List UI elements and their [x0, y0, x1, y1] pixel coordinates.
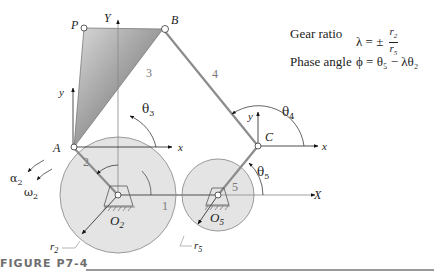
pin-a: [71, 144, 77, 150]
r5-leader: [180, 236, 192, 246]
label-y-a: y: [58, 86, 64, 98]
coupler-link-3: [74, 28, 163, 147]
label-x-global: X: [313, 188, 322, 202]
gear-ratio-lhs: λ = ±: [356, 34, 383, 49]
caption-rule: [86, 269, 434, 271]
label-link-3: 3: [146, 66, 152, 80]
label-theta4: θ4: [282, 105, 294, 121]
label-theta3: θ3: [142, 102, 154, 118]
rocker-link-4: [163, 29, 258, 146]
pin-c: [255, 143, 261, 149]
label-link-4: 4: [212, 67, 218, 81]
label-theta5: θ5: [257, 165, 269, 181]
label-link-1: 1: [162, 199, 168, 213]
label-y-global: Y: [104, 11, 112, 25]
figure-caption: FIGURE P7-4: [0, 257, 88, 270]
label-y-c: y: [247, 110, 253, 122]
pin-b: [162, 26, 169, 33]
label-c: C: [265, 130, 274, 144]
pivot-o2: [115, 192, 121, 198]
label-b: B: [171, 13, 179, 27]
phase-angle-label: Phase angle: [290, 54, 352, 70]
label-omega2: ω2: [24, 186, 38, 201]
label-x-c: x: [321, 140, 327, 152]
alpha2-arrow: [28, 160, 44, 172]
phase-angle-equation: ϕ = θ₅ − λθ₂: [356, 54, 418, 70]
label-r2: r2: [50, 240, 58, 255]
r2-leader: [62, 241, 80, 248]
pivot-o5: [215, 192, 221, 198]
label-alpha2: α2: [10, 172, 23, 187]
label-link-5: 5: [232, 180, 238, 194]
label-x-a: x: [177, 141, 183, 153]
point-p: [81, 25, 87, 31]
label-p: P: [70, 18, 79, 32]
label-link-2: 2: [83, 155, 89, 169]
label-a: A: [52, 141, 61, 155]
label-r5: r5: [194, 239, 202, 254]
gear-ratio-label: Gear ratio: [290, 26, 342, 42]
omega2-arrow: [37, 169, 52, 180]
